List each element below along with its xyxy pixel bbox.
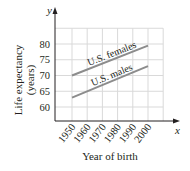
- series-lines: U.S. femalesU.S. males: [72, 39, 148, 98]
- y-tick-label: 70: [40, 70, 51, 81]
- y-tick-label: 60: [40, 102, 51, 113]
- x-axis-label: Year of birth: [82, 150, 138, 162]
- y-tick-labels: 6065707580: [40, 39, 51, 113]
- y-axis-variable: y: [46, 4, 52, 16]
- y-axis-label-line2: (years): [24, 64, 37, 95]
- y-axis-label: Life expectancy (years): [12, 44, 37, 115]
- life-expectancy-chart: y x 6065707580 195019601970198019902000 …: [0, 0, 190, 171]
- x-axis-arrow-icon: [173, 119, 180, 124]
- y-tick-label: 75: [40, 54, 51, 65]
- y-tick-label: 65: [40, 86, 51, 97]
- x-tick-label: 2000: [132, 121, 154, 144]
- y-axis-arrow-icon: [53, 7, 58, 14]
- x-tick-labels: 195019601970198019902000: [56, 121, 154, 144]
- y-tick-label: 80: [40, 39, 51, 50]
- y-axis-label-line1: Life expectancy: [12, 44, 24, 115]
- x-axis-variable: x: [174, 124, 180, 136]
